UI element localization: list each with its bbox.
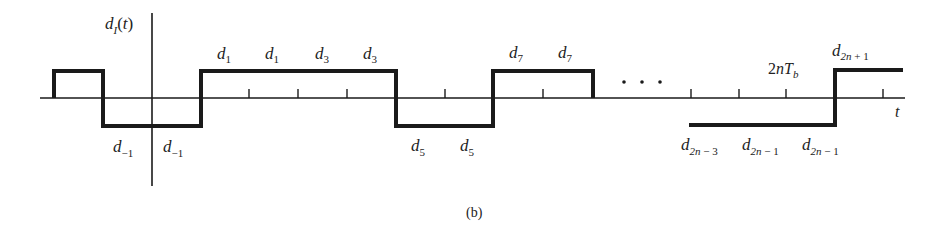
tick-label-2nTb: 2nTb (768, 60, 799, 80)
svg-text:d7: d7 (509, 43, 524, 64)
svg-text:d3: d3 (363, 44, 378, 65)
svg-text:d3: d3 (315, 44, 330, 65)
x-axis-label: t (895, 103, 900, 120)
svg-text:d1: d1 (217, 44, 231, 65)
tick-marks (249, 89, 883, 98)
svg-text:d−1: d−1 (163, 137, 183, 159)
svg-text:d−1: d−1 (113, 137, 133, 159)
svg-text:d1: d1 (265, 44, 279, 65)
svg-text:d2n − 1: d2n − 1 (802, 135, 839, 157)
svg-text:d2n − 3: d2n − 3 (681, 135, 718, 157)
svg-text:d2n − 1: d2n − 1 (742, 135, 779, 157)
ellipsis-dots (622, 80, 662, 84)
labels-below: d−1 d−1 d5 d5 d2n − 3 d2n − 1 d2n − 1 (113, 135, 839, 159)
figure-caption: (b) (466, 205, 483, 221)
svg-text:d2n + 1: d2n + 1 (832, 41, 869, 62)
svg-text:d5: d5 (411, 136, 426, 158)
waveform-diagram: dI(t) t d1 d1 d3 d3 d7 d7 d2n + 1 2nTb d… (0, 0, 951, 229)
y-axis-label: dI(t) (105, 14, 133, 36)
svg-text:d7: d7 (558, 43, 573, 64)
svg-text:d5: d5 (460, 136, 475, 158)
